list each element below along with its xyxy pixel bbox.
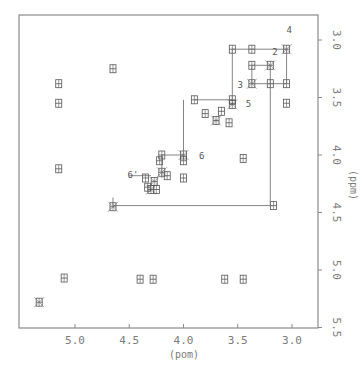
cross-peak — [226, 119, 232, 127]
diagonal-peak — [34, 297, 44, 307]
x-tick-label: 3.5 — [228, 334, 248, 347]
cross-peak — [181, 157, 187, 165]
cross-peak — [222, 275, 228, 283]
nmr-2d-spectrum: 5.04.54.03.53.0 3.03.54.04.55.05.5 42356… — [0, 0, 362, 375]
y-tick-label: 4.0 — [330, 145, 343, 165]
x-tick-label: 5.0 — [65, 334, 85, 347]
y-tick-label: 3.0 — [330, 30, 343, 50]
peak-label: 5 — [246, 99, 251, 109]
cross-peak — [56, 80, 62, 88]
cross-peak — [240, 154, 246, 162]
peak-label: 6' — [128, 170, 139, 180]
connectivity-lines — [113, 49, 287, 205]
peak-labels: 423566' — [128, 25, 292, 179]
peak-label: 2 — [272, 47, 277, 57]
cross-peak — [202, 110, 208, 118]
cross-peak — [56, 99, 62, 107]
cross-peak — [240, 275, 246, 283]
diagonal-peak — [211, 116, 221, 126]
cross-peak — [137, 275, 143, 283]
y-axis: 3.03.54.04.55.05.5 — [318, 30, 343, 337]
peak-label: 4 — [287, 25, 292, 35]
cross-peak — [110, 65, 116, 73]
cross-peak — [61, 274, 67, 282]
x-axis-label: (pom) — [169, 349, 199, 360]
cross-peak — [143, 174, 149, 182]
peak-label: 6 — [199, 151, 204, 161]
y-tick-label: 5.0 — [330, 260, 343, 280]
peak-label: 3 — [237, 80, 242, 90]
cross-peak — [150, 275, 156, 283]
cross-peak — [56, 165, 62, 173]
y-tick-label: 4.5 — [330, 203, 343, 223]
x-tick-label: 4.5 — [119, 334, 139, 347]
y-axis-label: (ppm) — [348, 170, 359, 200]
cross-peak — [145, 183, 151, 191]
y-tick-label: 5.5 — [330, 318, 343, 338]
x-tick-label: 3.0 — [282, 334, 302, 347]
y-tick-label: 3.5 — [330, 88, 343, 108]
cross-peak — [218, 107, 224, 115]
cross-peak — [284, 99, 290, 107]
cross-peak — [181, 174, 187, 182]
x-tick-label: 4.0 — [174, 334, 194, 347]
